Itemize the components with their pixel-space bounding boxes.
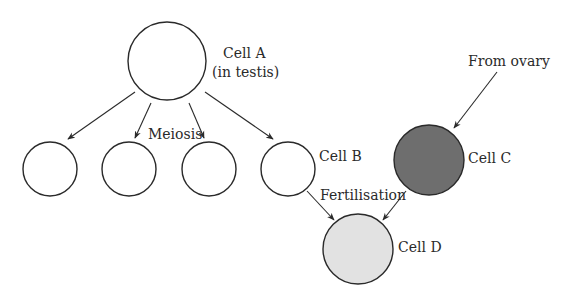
cell-a — [128, 22, 206, 100]
cell-c-label: Cell C — [468, 150, 511, 166]
from-ovary-label: From ovary — [468, 53, 550, 69]
fertilisation-label: Fertilisation — [320, 187, 406, 203]
gamete-3 — [182, 142, 236, 196]
cell-c — [394, 125, 464, 195]
cell-a-sublabel: (in testis) — [212, 64, 279, 80]
gamete-1 — [23, 142, 77, 196]
diagram-canvas: Cell A (in testis) Meiosis Cell B From o… — [0, 0, 563, 303]
cell-d — [323, 214, 393, 284]
meiosis-arrow-1 — [68, 92, 135, 139]
cell-d-label: Cell D — [398, 239, 442, 255]
cell-b — [261, 142, 315, 196]
cell-a-label: Cell A — [223, 45, 266, 61]
meiosis-label: Meiosis — [148, 126, 202, 142]
cell-b-label: Cell B — [319, 148, 362, 164]
gamete-2 — [102, 142, 156, 196]
meiosis-arrow-4 — [205, 92, 273, 139]
ovary-arrow — [454, 72, 497, 128]
